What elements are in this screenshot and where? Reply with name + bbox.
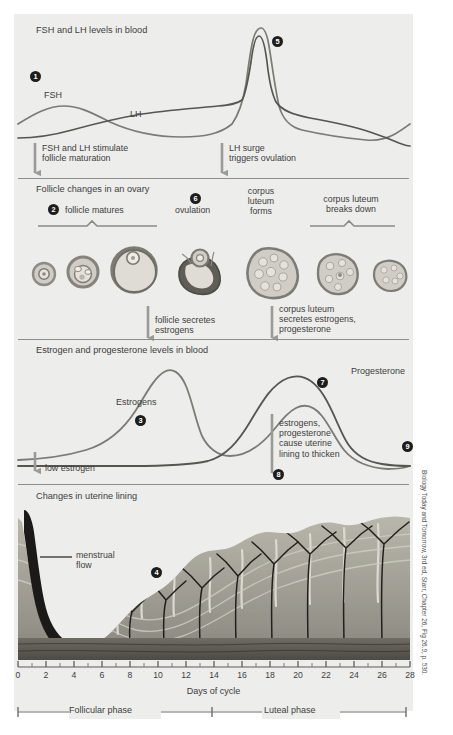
corpus-luteum-forms-illustration [247, 248, 297, 298]
label-ovulation: ovulation [175, 205, 210, 215]
panel3-note-left: low estrogen [45, 463, 95, 473]
axis-tick-label: 2 [36, 671, 56, 681]
uterine-lining-illustration [14, 488, 413, 660]
divider-1 [18, 178, 409, 179]
figure-panel: FSH and LH levels in blood 1 FSH LH 5 FS… [14, 14, 413, 711]
label-menstrual-flow: menstrual flow [76, 550, 115, 570]
corpus-albicans-illustration [374, 261, 406, 291]
follicle-stage-2 [68, 257, 98, 287]
divider-3 [18, 484, 409, 485]
panel2-note-right: corpus luteum secretes estrogens, proges… [279, 304, 356, 335]
axis-tick-label: 0 [8, 671, 28, 681]
lh-curve [18, 36, 410, 146]
panel2-title: Follicle changes in an ovary [36, 184, 149, 195]
axis-tick-label: 16 [232, 671, 252, 681]
corpus-luteum-regressing-illustration [318, 254, 358, 294]
follicle-ovulation [179, 250, 220, 295]
badge-4: 4 [151, 567, 162, 578]
badge-6: 6 [190, 193, 201, 204]
figure-credit: Biology Today and Tomorrow, 3rd ed, Star… [417, 470, 433, 710]
label-corpus-luteum-breaks: corpus luteum breaks down [305, 194, 397, 214]
panel2-note-left: follicle secretes estrogens [155, 315, 215, 335]
axis-tick-label: 20 [288, 671, 308, 681]
badge-8: 8 [273, 469, 284, 480]
badge-1: 1 [30, 71, 41, 82]
axis-title: Days of cycle [14, 686, 413, 696]
progesterone-label: Progesterone [351, 366, 405, 376]
phase-label-luteal: Luteal phase [264, 705, 316, 715]
badge-5: 5 [272, 36, 283, 47]
axis-tick-label: 14 [204, 671, 224, 681]
axis-tick-label: 24 [344, 671, 364, 681]
follicle-stage-3 [112, 248, 156, 292]
panel1-note-left: FSH and LH stimulate follicle maturation [42, 143, 128, 163]
label-follicle-matures: follicle matures [65, 205, 124, 215]
axis-tick-label: 8 [120, 671, 140, 681]
axis-tick-label: 22 [316, 671, 336, 681]
endometrium [18, 517, 410, 655]
phase-label-follicular: Follicular phase [69, 705, 132, 715]
fsh-label: FSH [44, 90, 62, 100]
badge-2: 2 [48, 204, 59, 215]
label-corpus-luteum-forms: corpus luteum forms [234, 186, 288, 217]
badge-7: 7 [317, 377, 328, 388]
axis-tick-label: 18 [260, 671, 280, 681]
panel1-note-right: LH surge triggers ovulation [229, 143, 296, 163]
axis-tick-label: 12 [176, 671, 196, 681]
axis-tick-label: 10 [148, 671, 168, 681]
follicle-stage-1 [33, 263, 55, 285]
panel3-note-right: estrogens, progesterone cause uterine li… [279, 418, 340, 459]
follicle-illustrations [14, 236, 413, 298]
axis-tick-label: 26 [372, 671, 392, 681]
axis-tick-label: 6 [92, 671, 112, 681]
fsh-curve [18, 28, 410, 140]
estrogens-label: Estrogens [116, 397, 157, 407]
axis-tick-label: 4 [64, 671, 84, 681]
divider-2 [18, 339, 409, 340]
credit-text: Biology Today and Tomorrow, 3rd ed, Star… [421, 470, 428, 675]
panel3-arrows [14, 414, 413, 470]
lh-label: LH [130, 109, 142, 119]
menstrual-flow-leader [14, 548, 413, 568]
